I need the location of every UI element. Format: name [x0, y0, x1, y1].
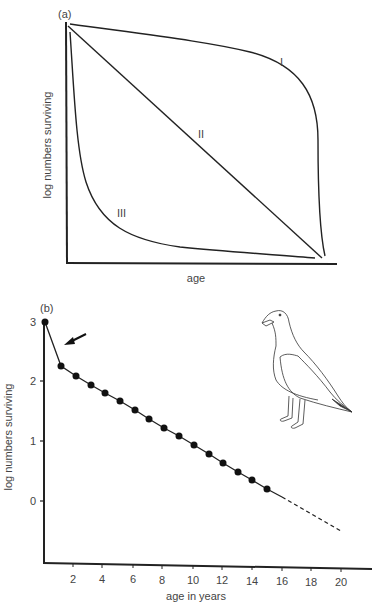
data-point	[161, 425, 168, 432]
x-tick-14: 14	[246, 575, 258, 587]
data-point	[102, 390, 109, 397]
x-tick-2: 2	[70, 573, 76, 585]
curve-I	[70, 24, 325, 256]
x-tick-4: 4	[99, 573, 105, 585]
panel-b-y-label: log numbers surviving	[2, 384, 14, 491]
x-tick-20: 20	[335, 576, 347, 588]
y-tick-1: 1	[30, 435, 36, 447]
data-point	[206, 451, 213, 458]
panel-a: (a) I II III log numbers surviving age	[41, 8, 337, 284]
data-point	[235, 469, 242, 476]
y-tick-0: 0	[30, 495, 36, 507]
y-tick-2: 2	[30, 375, 36, 387]
panel-b-y-ticks: 3 2 1 0	[30, 316, 44, 507]
data-points	[42, 319, 271, 493]
data-point	[264, 486, 271, 493]
panel-b: (b) 3 2 1 0 2 4 6 8	[2, 302, 372, 602]
gull-illustration-icon	[262, 311, 352, 429]
panel-b-label: (b)	[40, 302, 53, 314]
panel-a-x-label: age	[187, 272, 205, 284]
panel-b-x-label: age in years	[166, 590, 226, 602]
data-point	[73, 373, 80, 380]
data-point	[191, 442, 198, 449]
data-point	[132, 407, 139, 414]
panel-a-y-axis	[66, 22, 67, 264]
extrapolated-line	[282, 497, 341, 531]
x-tick-10: 10	[187, 574, 199, 586]
curve-III-label: III	[117, 207, 126, 219]
data-point	[117, 398, 124, 405]
observed-line	[45, 322, 282, 497]
curve-II	[68, 26, 322, 258]
data-point	[146, 416, 153, 423]
data-point	[249, 477, 256, 484]
x-tick-16: 16	[276, 575, 288, 587]
panel-a-label: (a)	[58, 8, 71, 20]
arrow-icon	[64, 334, 86, 345]
x-tick-6: 6	[130, 573, 136, 585]
data-point	[220, 460, 227, 467]
x-tick-12: 12	[216, 574, 228, 586]
figure: (a) I II III log numbers surviving age (…	[0, 0, 387, 609]
curve-II-label: II	[198, 128, 204, 140]
data-point	[176, 433, 183, 440]
data-point	[42, 319, 49, 326]
y-tick-3: 3	[30, 316, 36, 328]
data-point	[88, 382, 95, 389]
panel-a-y-label: log numbers surviving	[41, 92, 53, 199]
panel-b-x-axis	[43, 563, 372, 569]
x-tick-8: 8	[159, 574, 165, 586]
data-point	[58, 363, 65, 370]
curve-I-label: I	[280, 56, 283, 68]
x-tick-18: 18	[305, 576, 317, 588]
curve-III	[70, 32, 315, 258]
panel-a-x-axis	[66, 263, 337, 264]
